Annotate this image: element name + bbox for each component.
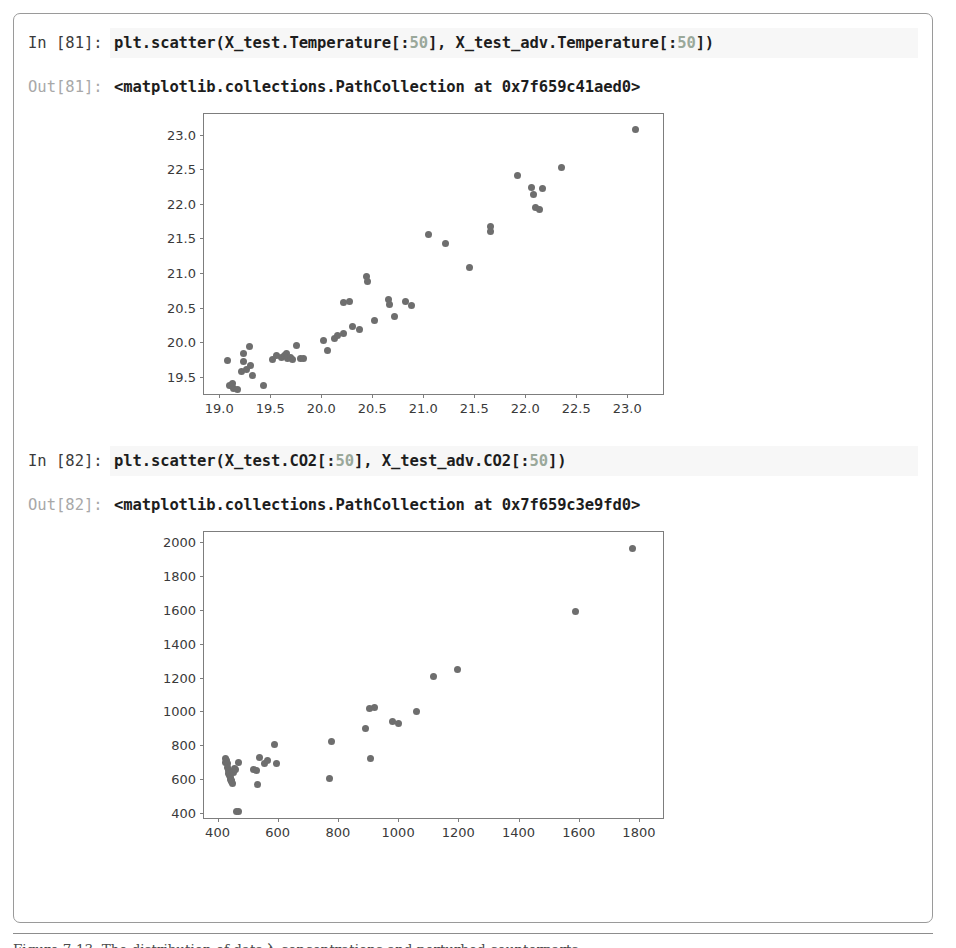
scatter-point bbox=[362, 725, 369, 732]
scatter-point bbox=[224, 357, 231, 364]
scatter-point bbox=[235, 808, 242, 815]
y-axis-tick bbox=[200, 308, 204, 309]
y-axis-tick-label: 600 bbox=[171, 772, 196, 787]
scatter-plot-co2: 4006008001000120014001600180020004006008… bbox=[28, 520, 918, 850]
scatter-point bbox=[364, 278, 371, 285]
scatter-point bbox=[340, 330, 347, 337]
x-axis-tick-label: 800 bbox=[326, 825, 351, 840]
scatter-point bbox=[356, 326, 363, 333]
x-axis-tick bbox=[423, 394, 424, 398]
code-input-81[interactable]: plt.scatter(X_test.Temperature[:50], X_t… bbox=[110, 28, 918, 58]
x-axis-tick-label: 1000 bbox=[382, 825, 415, 840]
x-axis-tick-label: 22.5 bbox=[562, 401, 591, 416]
scatter-point bbox=[234, 386, 241, 393]
y-axis-tick-label: 21.0 bbox=[167, 266, 196, 281]
y-axis-tick-label: 2000 bbox=[163, 535, 196, 550]
input-line-82: In [82]: plt.scatter(X_test.CO2[:50], X_… bbox=[28, 446, 918, 476]
y-axis-tick-label: 20.5 bbox=[167, 300, 196, 315]
y-axis-tick bbox=[200, 576, 204, 577]
y-axis-tick bbox=[200, 745, 204, 746]
y-axis-tick bbox=[200, 542, 204, 543]
y-axis-tick bbox=[200, 204, 204, 205]
figure-wrap-co2: 4006008001000120014001600180020004006008… bbox=[28, 520, 918, 850]
y-axis-tick bbox=[200, 377, 204, 378]
x-axis-tick-label: 20.5 bbox=[358, 401, 387, 416]
notebook-cell-81: In [81]: plt.scatter(X_test.Temperature[… bbox=[28, 28, 918, 432]
x-axis-tick bbox=[627, 394, 628, 398]
scatter-point bbox=[487, 228, 494, 235]
x-axis-tick bbox=[576, 394, 577, 398]
scatter-point bbox=[346, 298, 353, 305]
code-segment-middle: ], X_test_adv.Temperature[: bbox=[428, 34, 677, 52]
x-axis-tick bbox=[338, 818, 339, 822]
scatter-point bbox=[558, 164, 565, 171]
x-axis-tick-label: 19.0 bbox=[205, 401, 234, 416]
code-number-literal: 50 bbox=[336, 452, 354, 470]
scatter-point bbox=[371, 704, 378, 711]
output-line-82: Out[82]: <matplotlib.collections.PathCol… bbox=[28, 490, 918, 520]
scatter-point bbox=[324, 347, 331, 354]
scatter-point bbox=[408, 302, 415, 309]
scatter-point bbox=[254, 781, 261, 788]
scatter-point bbox=[391, 313, 398, 320]
code-segment-middle: ], X_test_adv.CO2[: bbox=[354, 452, 529, 470]
x-axis-tick-label: 600 bbox=[265, 825, 290, 840]
scatter-point bbox=[536, 206, 543, 213]
scatter-point bbox=[395, 720, 402, 727]
scatter-point bbox=[326, 775, 333, 782]
x-axis-tick-label: 20.0 bbox=[307, 401, 336, 416]
scatter-point bbox=[229, 780, 236, 787]
code-segment-suffix: ]) bbox=[696, 34, 714, 52]
plot-axes-co2: 4006008001000120014001600180020004006008… bbox=[203, 531, 664, 819]
scatter-point bbox=[235, 759, 242, 766]
x-axis-tick-label: 1800 bbox=[622, 825, 655, 840]
page-frame: In [81]: plt.scatter(X_test.Temperature[… bbox=[13, 13, 933, 923]
x-axis-tick-label: 23.0 bbox=[613, 401, 642, 416]
scatter-point bbox=[320, 337, 327, 344]
caption-divider bbox=[13, 933, 933, 934]
y-axis-tick-label: 800 bbox=[171, 738, 196, 753]
output-repr-82: <matplotlib.collections.PathCollection a… bbox=[110, 490, 918, 520]
scatter-point bbox=[240, 358, 247, 365]
scatter-point bbox=[530, 191, 537, 198]
scatter-point bbox=[247, 362, 254, 369]
x-axis-tick bbox=[639, 818, 640, 822]
code-number-literal-2: 50 bbox=[529, 452, 547, 470]
output-prompt-82: Out[82]: bbox=[28, 490, 110, 520]
figure-wrap-temperature: 19.520.020.521.021.522.022.523.019.019.5… bbox=[28, 102, 918, 432]
scatter-point bbox=[271, 741, 278, 748]
y-axis-tick-label: 19.5 bbox=[167, 369, 196, 384]
scatter-point bbox=[430, 673, 437, 680]
scatter-point bbox=[300, 355, 307, 362]
scatter-point bbox=[253, 767, 260, 774]
y-axis-tick bbox=[200, 135, 204, 136]
scatter-point bbox=[629, 545, 636, 552]
x-axis-tick bbox=[218, 818, 219, 822]
input-prompt-81: In [81]: bbox=[28, 28, 110, 58]
y-axis-tick-label: 20.0 bbox=[167, 335, 196, 350]
y-axis-tick-label: 22.0 bbox=[167, 196, 196, 211]
scatter-point bbox=[260, 382, 267, 389]
y-axis-tick bbox=[200, 644, 204, 645]
y-axis-tick-label: 1600 bbox=[163, 602, 196, 617]
code-number-literal-2: 50 bbox=[677, 34, 695, 52]
x-axis-tick bbox=[278, 818, 279, 822]
scatter-point bbox=[289, 356, 296, 363]
x-axis-tick-label: 21.0 bbox=[409, 401, 438, 416]
x-axis-tick bbox=[398, 818, 399, 822]
y-axis-tick-label: 400 bbox=[171, 805, 196, 820]
scatter-point bbox=[632, 126, 639, 133]
notebook-cell-82: In [82]: plt.scatter(X_test.CO2[:50], X_… bbox=[28, 446, 918, 850]
output-repr-81: <matplotlib.collections.PathCollection a… bbox=[110, 72, 918, 102]
y-axis-tick-label: 1000 bbox=[163, 704, 196, 719]
x-axis-tick-label: 1400 bbox=[502, 825, 535, 840]
input-prompt-82: In [82]: bbox=[28, 446, 110, 476]
code-number-literal: 50 bbox=[409, 34, 427, 52]
x-axis-tick bbox=[458, 818, 459, 822]
scatter-point bbox=[264, 757, 271, 764]
y-axis-tick-label: 23.0 bbox=[167, 127, 196, 142]
x-axis-tick-label: 1600 bbox=[562, 825, 595, 840]
scatter-point bbox=[454, 666, 461, 673]
code-input-82[interactable]: plt.scatter(X_test.CO2[:50], X_test_adv.… bbox=[110, 446, 918, 476]
scatter-point bbox=[539, 185, 546, 192]
